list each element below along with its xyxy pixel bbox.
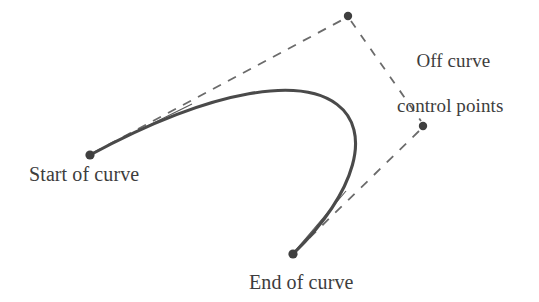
off-curve-control-points-label: Off curve control points: [397, 28, 503, 162]
end-of-curve-point: [288, 249, 297, 258]
start-of-curve-label: Start of curve: [29, 163, 139, 187]
end-of-curve-label: End of curve: [249, 271, 354, 295]
control-point-1-marker: [344, 12, 352, 20]
control-polygon-group: [93, 19, 421, 250]
start-of-curve-point: [85, 150, 94, 159]
off-curve-label-line-2: control points: [397, 95, 503, 117]
off-curve-label-line-1: Off curve: [416, 50, 490, 71]
point-markers-group: [85, 12, 427, 259]
bezier-diagram: Start of curve End of curve Off curve co…: [0, 0, 539, 302]
